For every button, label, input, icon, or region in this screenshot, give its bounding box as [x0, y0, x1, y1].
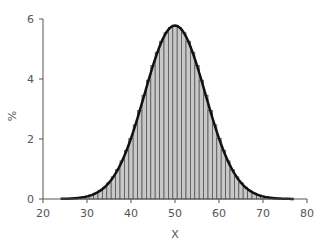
histogram-bar	[182, 33, 186, 199]
y-tick-label: 4	[27, 73, 34, 86]
histogram-bar	[221, 150, 225, 199]
y-tick-label: 2	[27, 133, 34, 146]
x-tick-label: 30	[80, 207, 94, 220]
x-tick-label: 50	[168, 207, 182, 220]
histogram-bar	[151, 66, 155, 200]
histogram-bar	[164, 33, 168, 199]
histogram-bar	[146, 80, 150, 199]
histogram-bar	[217, 138, 221, 199]
histogram-bar	[208, 111, 212, 200]
histogram-bar	[190, 52, 194, 199]
x-tick-label: 60	[212, 207, 226, 220]
histogram-bar	[142, 95, 146, 199]
histogram-bar	[138, 111, 142, 200]
histogram-bars	[63, 26, 287, 199]
x-tick-label: 70	[256, 207, 270, 220]
x-axis-title: X	[171, 228, 179, 241]
histogram-bar	[124, 150, 128, 199]
histogram-bar	[199, 80, 203, 199]
histogram-bar	[173, 26, 177, 199]
histogram-bar	[129, 138, 133, 199]
histogram-bar	[168, 27, 172, 199]
x-tick-label: 80	[300, 207, 314, 220]
x-tick-label: 20	[36, 207, 50, 220]
histogram-bar	[204, 95, 208, 199]
y-tick-label: 6	[27, 13, 34, 26]
x-tick-label: 40	[124, 207, 138, 220]
histogram-bar	[195, 66, 199, 200]
y-tick-label: 0	[27, 193, 34, 206]
y-axis-title: %	[6, 111, 19, 121]
histogram-chart: 024620304050607080 X %	[0, 0, 328, 246]
histogram-bar	[177, 27, 181, 199]
histogram-bar	[160, 41, 164, 199]
histogram-bar	[133, 125, 137, 199]
histogram-bar	[155, 52, 159, 199]
histogram-bar	[212, 125, 216, 199]
histogram-bar	[186, 41, 190, 199]
